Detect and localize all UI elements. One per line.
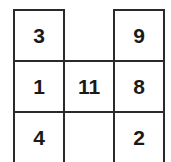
- cell-left-middle: 1: [13, 60, 65, 113]
- cell-left-top: 3: [13, 9, 65, 62]
- cell-right-middle: 8: [113, 60, 165, 113]
- cell-right-top: 9: [113, 9, 165, 62]
- cell-center: 11: [63, 60, 115, 113]
- cell-left-bottom: 4: [13, 111, 65, 162]
- cell-right-bottom: 2: [113, 111, 165, 162]
